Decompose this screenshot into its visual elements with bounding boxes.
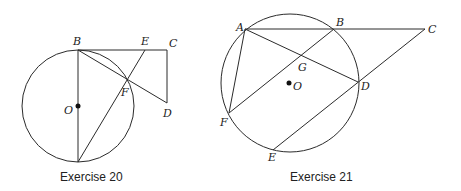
- caption-exercise-21: Exercise 21: [290, 170, 353, 184]
- label-g: G: [298, 61, 307, 74]
- exercise-20-figure: B E C F D O Exercise 20: [22, 35, 178, 184]
- segment-fb: [229, 29, 334, 113]
- exercise-21-figure: A B C G D O F E Exercise 21: [219, 14, 437, 184]
- label-f: F: [219, 116, 228, 129]
- geometry-diagrams: B E C F D O Exercise 20 A B C G D O F E …: [0, 0, 461, 191]
- label-d: D: [360, 80, 370, 93]
- label-o: O: [293, 80, 302, 93]
- label-c: C: [428, 23, 437, 36]
- label-e: E: [140, 35, 149, 48]
- label-d: D: [162, 107, 172, 120]
- label-b: B: [72, 35, 81, 48]
- label-c: C: [169, 37, 178, 50]
- center-dot: [287, 81, 292, 86]
- label-e: E: [267, 151, 276, 164]
- segment-ae: [78, 50, 145, 162]
- label-f: F: [120, 86, 129, 99]
- center-dot: [76, 104, 81, 109]
- label-a: A: [235, 21, 244, 34]
- label-o: O: [64, 104, 73, 117]
- label-b: B: [335, 16, 344, 29]
- segment-af: [229, 29, 245, 113]
- caption-exercise-20: Exercise 20: [60, 170, 123, 184]
